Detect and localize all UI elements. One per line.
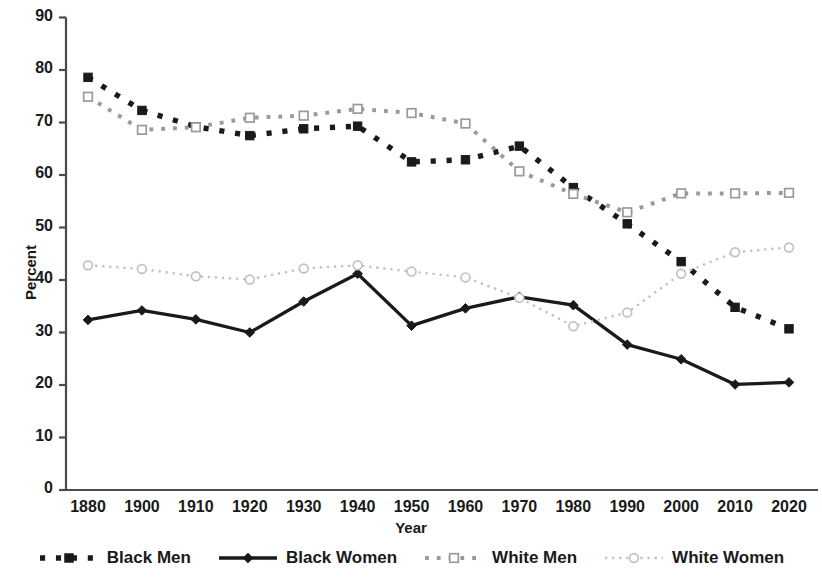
y-tick-label: 20: [15, 374, 53, 392]
data-point: [138, 265, 147, 274]
y-tick-label: 40: [15, 269, 53, 287]
y-tick-label: 80: [15, 59, 53, 77]
data-point: [192, 123, 201, 132]
data-point: [784, 378, 794, 388]
data-point: [515, 167, 524, 176]
series-white-men: [84, 92, 794, 216]
legend-item-black-women[interactable]: Black Women: [217, 548, 397, 568]
x-tick-label: 2020: [759, 498, 819, 516]
chart-legend: Black MenBlack WomenWhite MenWhite Women: [0, 548, 822, 568]
axes: [59, 18, 818, 491]
legend-item-white-women[interactable]: White Women: [603, 548, 784, 568]
data-point: [461, 119, 470, 128]
series-black-men: [84, 73, 793, 333]
data-point: [84, 73, 92, 81]
data-point: [677, 269, 686, 278]
x-axis-title: Year: [0, 519, 822, 536]
y-tick-label: 50: [15, 217, 53, 235]
y-tick-label: 0: [15, 479, 53, 497]
legend-swatch-filled-square-icon: [38, 550, 100, 566]
data-point: [246, 131, 254, 139]
legend-label: White Women: [672, 548, 784, 568]
data-point: [84, 92, 93, 101]
x-tick-label: 1950: [382, 498, 442, 516]
data-point: [407, 109, 416, 118]
data-point: [245, 113, 254, 122]
data-point: [138, 126, 147, 135]
x-tick-label: 1930: [274, 498, 334, 516]
legend-item-black-men[interactable]: Black Men: [38, 548, 191, 568]
data-point: [731, 248, 740, 257]
data-point: [299, 111, 308, 120]
x-tick-label: 1920: [220, 498, 280, 516]
data-point: [630, 554, 639, 563]
series-layer: [83, 73, 794, 389]
data-point: [243, 553, 253, 563]
data-point: [785, 325, 793, 333]
data-point: [731, 189, 740, 198]
x-tick-label: 1910: [166, 498, 226, 516]
series-black-women: [83, 269, 794, 389]
data-point: [731, 303, 739, 311]
data-point: [83, 315, 93, 325]
x-tick-label: 1970: [489, 498, 549, 516]
x-tick-label: 1960: [435, 498, 495, 516]
data-point: [84, 261, 93, 270]
data-point: [137, 306, 147, 316]
data-point: [353, 261, 362, 270]
data-point: [515, 293, 524, 302]
data-point: [407, 267, 416, 276]
data-point: [461, 304, 471, 314]
data-point: [299, 264, 308, 273]
data-point: [461, 273, 470, 282]
x-tick-label: 1980: [543, 498, 603, 516]
legend-swatch-open-square-icon: [423, 550, 485, 566]
x-tick-label: 1900: [112, 498, 172, 516]
data-point: [677, 257, 685, 265]
data-point: [353, 105, 362, 114]
data-point: [191, 272, 200, 281]
data-point: [450, 554, 459, 563]
data-point: [785, 189, 794, 198]
y-tick-label: 90: [15, 7, 53, 25]
data-point: [623, 208, 632, 217]
x-tick-label: 1940: [328, 498, 388, 516]
legend-swatch-open-circle-icon: [603, 550, 665, 566]
data-point: [569, 190, 578, 199]
legend-swatch-filled-diamond-icon: [217, 550, 279, 566]
data-point: [65, 554, 73, 562]
series-line: [88, 274, 789, 385]
y-tick-label: 60: [15, 164, 53, 182]
line-chart: Percent Year 0102030405060708090 1880190…: [0, 0, 822, 586]
data-point: [407, 158, 415, 166]
legend-item-white-men[interactable]: White Men: [423, 548, 577, 568]
data-point: [245, 275, 254, 284]
data-point: [299, 125, 307, 133]
y-tick-label: 10: [15, 427, 53, 445]
data-point: [623, 220, 631, 228]
x-tick-label: 1880: [58, 498, 118, 516]
data-point: [353, 122, 361, 130]
x-tick-label: 1990: [597, 498, 657, 516]
legend-label: Black Men: [107, 548, 191, 568]
data-point: [569, 322, 578, 331]
y-tick-label: 30: [15, 322, 53, 340]
data-point: [785, 243, 794, 252]
data-point: [191, 315, 201, 325]
data-point: [515, 142, 523, 150]
data-point: [461, 156, 469, 164]
x-tick-label: 2000: [651, 498, 711, 516]
x-tick-label: 2010: [705, 498, 765, 516]
data-point: [677, 189, 686, 198]
legend-label: Black Women: [286, 548, 397, 568]
y-tick-label: 70: [15, 112, 53, 130]
data-point: [138, 106, 146, 114]
legend-label: White Men: [492, 548, 577, 568]
series-line: [88, 77, 789, 328]
data-point: [623, 308, 632, 317]
